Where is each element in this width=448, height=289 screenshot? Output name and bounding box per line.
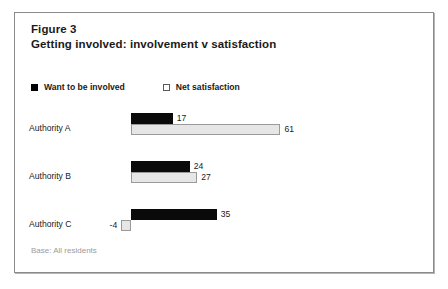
bar-net-satisfaction bbox=[121, 220, 131, 231]
bar-net-satisfaction bbox=[131, 172, 197, 183]
bar-want-to-be-involved bbox=[131, 161, 190, 172]
figure-frame: Figure 3 Getting involved: involvement v… bbox=[14, 12, 434, 273]
bar-want-to-be-involved bbox=[131, 209, 217, 220]
bar-want-to-be-involved bbox=[131, 113, 173, 124]
bar-row: 17 bbox=[15, 113, 435, 124]
bar-value-label: 27 bbox=[201, 172, 211, 183]
bar-value-label: 61 bbox=[284, 124, 294, 135]
bar-value-label: -4 bbox=[110, 220, 122, 231]
bar-value-label: 17 bbox=[177, 113, 187, 124]
bar-net-satisfaction bbox=[131, 124, 280, 135]
figure-base-note: Base: All residents bbox=[31, 246, 97, 255]
bar-row: 35 bbox=[15, 209, 435, 220]
bar-row: 24 bbox=[15, 161, 435, 172]
bar-row: 61 bbox=[15, 124, 435, 135]
bar-value-label: 24 bbox=[194, 161, 204, 172]
bar-value-label: 35 bbox=[221, 209, 231, 220]
bar-row: -4 bbox=[15, 220, 435, 231]
chart-plot-area: Authority A1761Authority B2427Authority … bbox=[15, 13, 435, 274]
bar-row: 27 bbox=[15, 172, 435, 183]
